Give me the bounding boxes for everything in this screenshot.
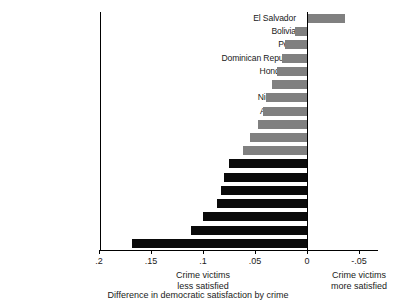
bar [272,80,307,89]
annotation-less-satisfied: Crime victimsless satisfied [143,270,263,292]
bar [307,14,345,23]
category-label: Bolivia [198,25,296,38]
bar [250,133,307,142]
bar [221,186,307,195]
bar [132,239,307,248]
bar [203,212,307,221]
category-label: Peru [198,38,296,51]
chart-caption: Difference in democratic satisfaction by… [0,290,396,300]
x-axis-line [100,250,378,251]
bar [277,67,307,76]
zero-reference-line [307,12,308,250]
tick-label: .1 [183,256,223,266]
bar [285,40,307,49]
tick-label: 0 [287,256,327,266]
tick-label: .15 [131,256,171,266]
annotation-line: Crime victims [299,270,396,281]
chart-container: El SalvadorBoliviaPeruDominican Republic… [0,0,396,304]
y-axis-line [100,12,101,250]
category-axis-labels: El SalvadorBoliviaPeruDominican Republic… [0,12,396,250]
tick-mark [99,250,100,254]
bar [217,199,307,208]
bar [224,173,307,182]
tick-label: -.05 [339,256,379,266]
bar [295,27,307,36]
tick-mark [359,250,360,254]
bar [258,120,307,129]
tick-mark [151,250,152,254]
bar [191,226,307,235]
tick-mark [203,250,204,254]
bar [266,93,307,102]
category-label: El Salvador [198,12,296,25]
tick-label: .2 [79,256,119,266]
tick-mark [255,250,256,254]
bar [282,54,307,63]
annotation-line: Crime victims [143,270,263,281]
tick-label: .05 [235,256,275,266]
tick-mark [307,250,308,254]
bar [243,146,307,155]
annotation-more-satisfied: Crime victimsmore satisfied [299,270,396,292]
bar [263,107,307,116]
bar [229,159,307,168]
